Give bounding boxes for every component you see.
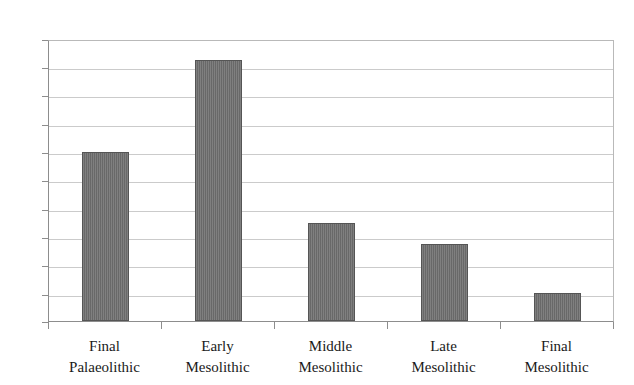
x-axis-category-label: Final Mesolithic (500, 336, 613, 378)
bar[interactable] (421, 244, 468, 321)
x-axis-category-label: Middle Mesolithic (274, 336, 387, 378)
bar-slot (275, 41, 388, 321)
x-tick-mark (387, 322, 388, 329)
bar-slot (388, 41, 501, 321)
x-tick-mark (500, 322, 501, 329)
x-label-line: Mesolithic (161, 357, 274, 378)
x-tick-mark (274, 322, 275, 329)
x-label-line: Late (387, 336, 500, 357)
x-label-line: Final (500, 336, 613, 357)
bar[interactable] (534, 293, 581, 321)
x-axis-category-label: Final Palaeolithic (48, 336, 161, 378)
x-label-line: Final (48, 336, 161, 357)
x-label-line: Mesolithic (500, 357, 613, 378)
x-tick-mark (613, 322, 614, 329)
x-label-line: Mesolithic (387, 357, 500, 378)
x-label-line: Early (161, 336, 274, 357)
x-tick-mark (161, 322, 162, 329)
bar[interactable] (82, 152, 129, 321)
bar-slot (49, 41, 162, 321)
bar[interactable] (195, 60, 242, 321)
bar-slot (501, 41, 614, 321)
x-label-line: Middle (274, 336, 387, 357)
x-axis-category-label: Late Mesolithic (387, 336, 500, 378)
x-label-line: Palaeolithic (48, 357, 161, 378)
bar-slot (162, 41, 275, 321)
x-tick-mark (48, 322, 49, 329)
bar[interactable] (308, 223, 355, 321)
x-label-line: Mesolithic (274, 357, 387, 378)
plot-area (48, 40, 614, 322)
bar-chart: 20 18 16 14 12 10 8 6 4 2 0 (0, 0, 634, 385)
x-axis-category-label: Early Mesolithic (161, 336, 274, 378)
